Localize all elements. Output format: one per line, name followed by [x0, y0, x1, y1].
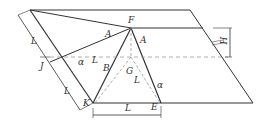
label-F: F	[128, 16, 134, 25]
geometry-diagram: F A A J α L B G L α K E L L L H	[0, 0, 266, 127]
label-L-left-lower: L	[64, 87, 70, 96]
label-G: G	[126, 67, 133, 76]
label-L-slant: L	[134, 76, 140, 85]
label-B: B	[103, 64, 110, 73]
label-alpha-right: α	[157, 81, 163, 90]
label-A-left: A	[105, 30, 112, 39]
label-H: H	[220, 37, 229, 45]
label-K: K	[83, 99, 90, 108]
label-L-mid: L	[92, 56, 98, 65]
label-alpha-left: α	[78, 58, 84, 67]
label-L-left-upper: L	[31, 37, 37, 46]
label-L-bottom: L	[125, 104, 131, 113]
label-E: E	[151, 103, 158, 112]
label-A-right: A	[140, 36, 147, 45]
label-J: J	[40, 62, 44, 71]
